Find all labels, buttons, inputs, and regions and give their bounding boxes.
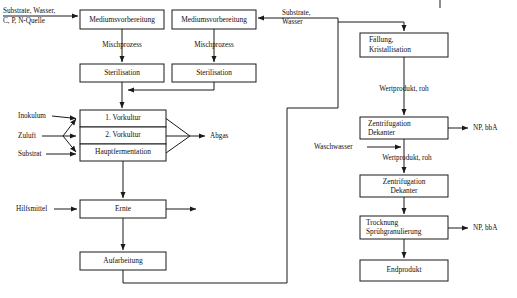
box-medium-prep-right-label: Mediumsvorbereitung [181,15,247,24]
box-ernte-label: Ernte [115,204,132,213]
box-sterilisation-right-label: Sterilisation [196,68,232,77]
label-wertprodukt-roh-2: Wertprodukt, roh [382,154,432,162]
label-inokulum: Inokulum [18,112,46,120]
label-hilfsmittel: Hilfsmittel [16,205,47,213]
label-input-top-left-line1: Substrate, Wasser, [3,7,56,15]
label-wertprodukt-roh-1: Wertprodukt, roh [379,85,429,93]
box-zentrifugation-2-label-line2: Dekanter [390,186,418,195]
arrow-zuluft-to-hauptfermentation [63,136,76,152]
box-zentrifugation-1-label-line1: Zentrifugation [368,119,411,128]
box-endprodukt-label: Endprodukt [387,265,423,274]
label-mischprozess-left: Mischprozess [102,41,142,49]
label-substrat: Substrat [18,150,42,158]
label-np-bba-2: NP, bbA [473,224,498,232]
line-abgas-from-hauptfermentation [166,136,190,153]
box-faellung-label-line2: Kristallisation [369,45,411,54]
label-input-top-right-line2: Wasser [282,18,303,26]
box-trocknung-label-line1: Trocknung [366,218,398,227]
line-sterilisation-right-join [128,82,214,90]
box-medium-prep-left-label: Mediumsvorbereitung [89,15,155,24]
box-zentrifugation-1-label-line2: Dekanter [368,128,396,137]
box-vorkultur-2-label: 2. Vorkultur [105,130,141,139]
arrow-inokulum [52,116,76,119]
label-np-bba-1: NP, bbA [473,124,498,132]
label-input-top-left-line2: C, P, N-Quelle [3,17,45,25]
box-aufarbeitung-label: Aufarbeitung [103,256,143,265]
box-sterilisation-left-label: Sterilisation [104,68,140,77]
label-abgas: Abgas [210,132,229,140]
label-mischprozess-right: Mischprozess [194,41,234,49]
box-hauptfermentation-label: Hauptfermentation [95,147,151,156]
box-trocknung-label-line2: Sprühgranulierung [366,227,422,236]
line-abgas-from-vorkultur-1 [166,119,190,137]
label-waschwasser: Waschwasser [314,143,353,151]
box-vorkultur-1-label: 1. Vorkultur [105,113,141,122]
box-faellung-label-line1: Fällung, [369,35,394,44]
arrow-zuluft-to-vorkultur-1 [63,119,76,136]
process-flow-diagram: Mediumsvorbereitung Mediumsvorbereitung … [0,0,517,298]
label-input-top-right-line1: Substrate, [282,9,311,17]
box-zentrifugation-2-label-line1: Zentrifugation [383,177,426,186]
label-zuluft: Zuluft [18,132,36,140]
